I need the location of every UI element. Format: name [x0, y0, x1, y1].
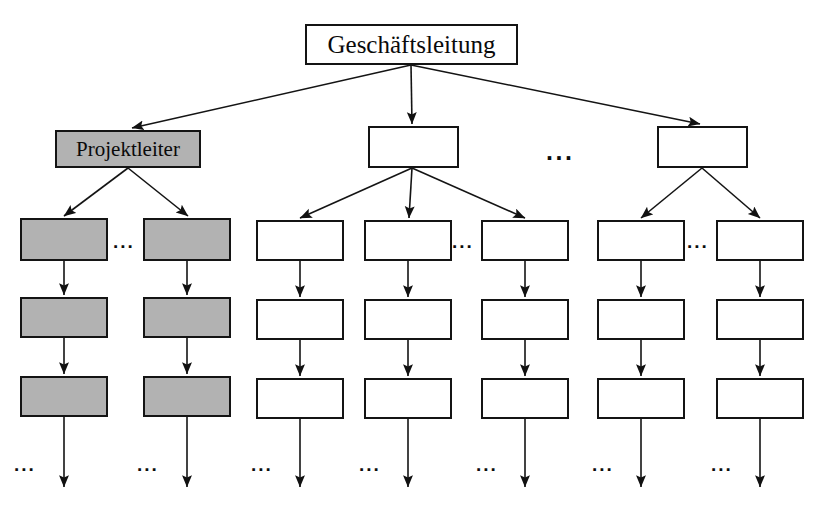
ellipsis-ell-tail-7: ... [711, 455, 733, 474]
org-node-mgmt-2[interactable] [368, 126, 459, 168]
connector-e-m2-2 [409, 168, 412, 218]
org-node-r4c1[interactable] [20, 297, 108, 338]
connector-e-m3-2 [702, 168, 760, 218]
org-node-r4c2[interactable] [143, 297, 231, 338]
org-node-r4c6[interactable] [597, 299, 685, 340]
org-node-r4c3[interactable] [256, 299, 344, 340]
connector-e-top-mid [411, 65, 412, 124]
org-node-r3c3[interactable] [256, 220, 344, 261]
ellipsis-ell-r3-b: ... [452, 232, 474, 251]
org-node-r5c3[interactable] [256, 378, 344, 419]
org-node-r5c2[interactable] [143, 376, 231, 417]
ellipsis-ell-mgmt: ... [546, 139, 574, 164]
org-node-r5c7[interactable] [716, 378, 804, 419]
org-node-r4c4[interactable] [364, 299, 452, 340]
ellipsis-ell-tail-4: ... [359, 455, 381, 474]
org-node-r3c1[interactable] [20, 218, 108, 261]
org-node-r3c2[interactable] [143, 218, 231, 261]
ellipsis-ell-tail-2: ... [137, 455, 159, 474]
ellipsis-ell-tail-5: ... [476, 455, 498, 474]
connector-e-pl-1 [64, 168, 128, 216]
org-chart-diagram: GeschäftsleitungProjektleiter...........… [0, 0, 828, 507]
org-node-r3c7[interactable] [716, 220, 804, 261]
connector-e-top-right [411, 65, 700, 124]
org-node-mgmt-3[interactable] [657, 126, 748, 168]
connector-e-pl-2 [128, 168, 188, 216]
ellipsis-ell-r3-a: ... [113, 232, 135, 251]
ellipsis-ell-tail-3: ... [251, 455, 273, 474]
org-node-label: Geschäftsleitung [327, 32, 495, 57]
org-node-r5c6[interactable] [597, 378, 685, 419]
org-node-projektleiter[interactable]: Projektleiter [55, 130, 201, 168]
org-node-r5c1[interactable] [20, 376, 108, 417]
org-node-r4c5[interactable] [481, 299, 569, 340]
org-node-r3c6[interactable] [597, 220, 685, 261]
org-node-label: Projektleiter [76, 139, 180, 160]
org-node-r5c4[interactable] [364, 378, 452, 419]
org-node-geschaeftsleitung[interactable]: Geschäftsleitung [305, 24, 518, 65]
connector-e-m3-1 [641, 168, 702, 218]
connector-e-top-left [132, 65, 411, 128]
ellipsis-ell-r3-c: ... [687, 232, 709, 251]
org-node-r4c7[interactable] [716, 299, 804, 340]
ellipsis-ell-tail-1: ... [14, 455, 36, 474]
connector-e-m2-3 [412, 168, 525, 218]
connector-e-m2-1 [300, 168, 412, 218]
org-node-r5c5[interactable] [481, 378, 569, 419]
org-node-r3c4[interactable] [364, 220, 452, 261]
ellipsis-ell-tail-6: ... [592, 455, 614, 474]
org-node-r3c5[interactable] [481, 220, 569, 261]
